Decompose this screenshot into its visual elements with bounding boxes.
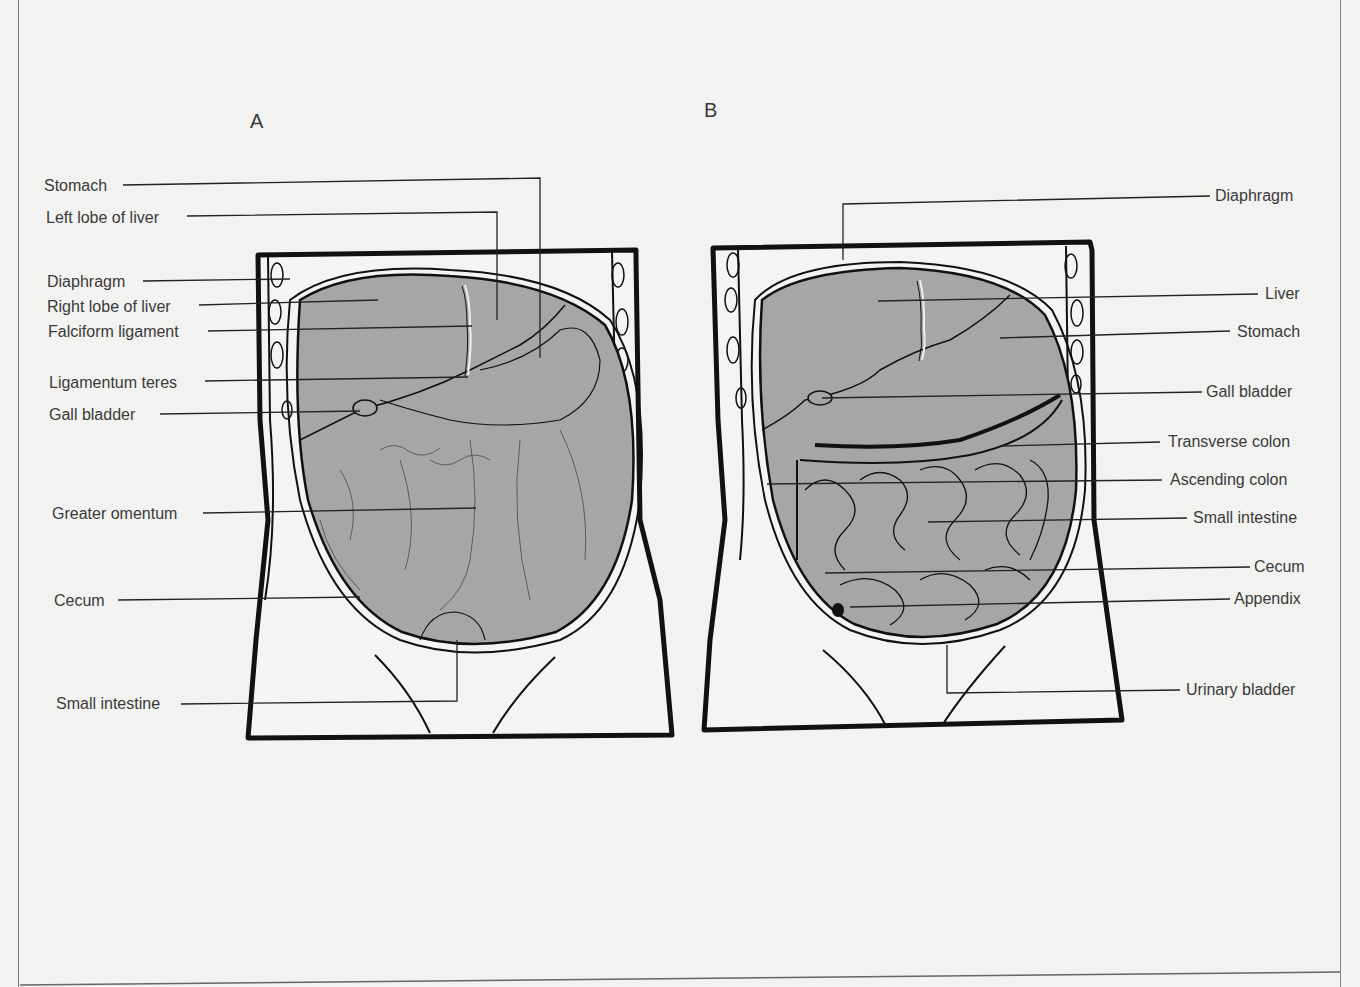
panel-b-drawing [704, 242, 1122, 730]
label-b-urinary-bladder: Urinary bladder [1186, 682, 1295, 698]
label-a-greater-omentum: Greater omentum [52, 506, 177, 522]
label-a-stomach: Stomach [44, 178, 107, 194]
label-b-cecum: Cecum [1254, 559, 1305, 575]
label-a-gall-bladder: Gall bladder [49, 407, 135, 423]
label-a-right-lobe-liver: Right lobe of liver [47, 299, 171, 315]
label-a-ligamentum-teres: Ligamentum teres [49, 375, 177, 391]
label-b-ascending-colon: Ascending colon [1170, 472, 1287, 488]
label-a-falciform-ligament: Falciform ligament [48, 324, 179, 340]
label-b-stomach: Stomach [1237, 324, 1300, 340]
label-b-appendix: Appendix [1234, 591, 1301, 607]
panel-b-letter: B [704, 99, 717, 122]
diagram-drawing [0, 0, 1360, 987]
label-a-left-lobe-liver: Left lobe of liver [46, 210, 159, 226]
anatomy-figure: A B Stomach Left lobe of liver Diaphragm… [0, 0, 1360, 987]
label-a-cecum: Cecum [54, 593, 105, 609]
label-b-diaphragm: Diaphragm [1215, 188, 1293, 204]
panel-a-letter: A [250, 110, 263, 133]
label-b-gall-bladder: Gall bladder [1206, 384, 1292, 400]
label-b-small-intestine: Small intestine [1193, 510, 1297, 526]
label-b-transverse-colon: Transverse colon [1168, 434, 1290, 450]
panel-a-drawing [248, 250, 672, 738]
label-b-liver: Liver [1265, 286, 1300, 302]
label-a-small-intestine: Small intestine [56, 696, 160, 712]
label-a-diaphragm: Diaphragm [47, 274, 125, 290]
